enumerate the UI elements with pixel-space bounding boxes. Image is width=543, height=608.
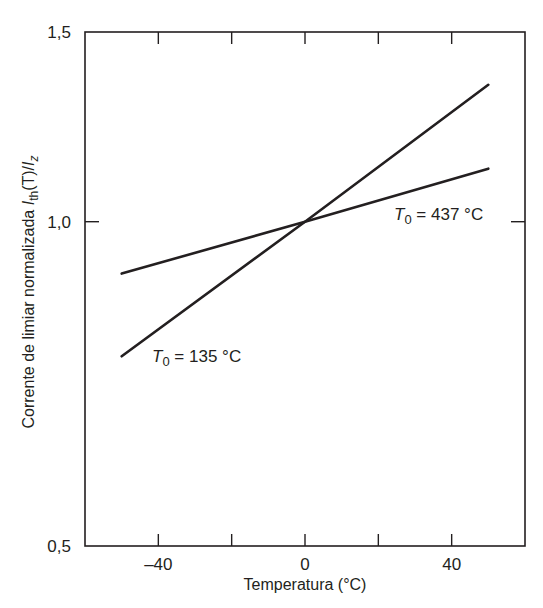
annotation-value: = 135 °C [170, 347, 242, 366]
y-axis-title-mid: (T)/ [20, 165, 37, 190]
x-axis-title: Temperatura (°C) [244, 576, 367, 593]
x-tick-label: –40 [144, 555, 172, 574]
tick-labels: –400400,51,01,5 [47, 23, 461, 574]
annotation-value: = 437 °C [412, 205, 484, 224]
y-axis-title-main: Corrente de limiar normalizada [20, 205, 37, 428]
y-axis-title: Corrente de limiar normalizada Ith(T)/Iz [20, 156, 41, 429]
x-tick-label: 40 [442, 555, 461, 574]
plot-border [85, 32, 525, 546]
y-tick-label: 0,5 [47, 537, 71, 556]
y-axis-title-sub-z: z [27, 156, 41, 163]
annotation-sub: 0 [162, 354, 169, 369]
y-tick-label: 1,0 [47, 213, 71, 232]
x-tick-label: 0 [300, 555, 309, 574]
axis-ticks [85, 32, 525, 546]
y-axis-title-sub-th: th [27, 191, 41, 201]
annotation-t0-437: T0 = 437 °C [394, 205, 483, 227]
annotation-t0-135: T0 = 135 °C [152, 347, 241, 369]
annotation-sub: 0 [404, 212, 411, 227]
y-tick-label: 1,5 [47, 23, 71, 42]
chart: –400400,51,01,5 Temperatura (°C) Corrent… [0, 0, 543, 608]
plot-frame [85, 32, 525, 546]
